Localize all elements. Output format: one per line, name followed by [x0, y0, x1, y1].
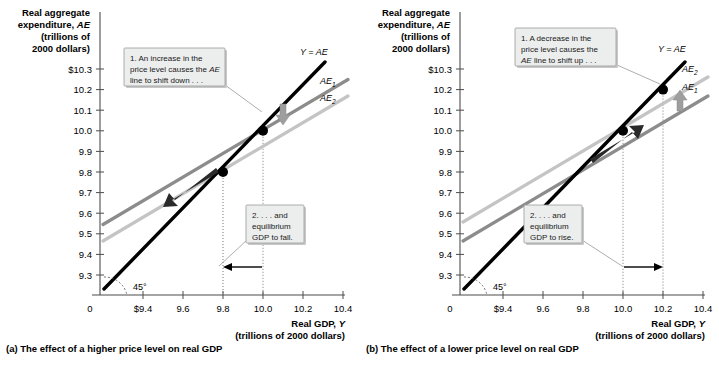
x-tick-label-4: 10.2 [294, 303, 313, 314]
identity-line [464, 62, 685, 289]
x-tick-label-1: 9.6 [536, 303, 549, 314]
x-tick-label-4: 10.2 [654, 303, 673, 314]
y-tick-label-8: 9.5 [79, 228, 92, 239]
y-tick-label-8: 9.5 [439, 228, 452, 239]
y-tick-label-5: 9.8 [439, 167, 452, 178]
y-axis-title-line3: (trillions of [401, 31, 451, 42]
gdp-change-arrow [223, 263, 262, 271]
y-tick-label-4: 9.9 [79, 146, 92, 157]
callout-1: 1. A decrease in the price level causes … [515, 28, 618, 68]
callout-1-leader [617, 65, 660, 84]
callout-2-line-1: equilibrium [530, 222, 569, 231]
callout-1: 1. An increase in the price level causes… [124, 48, 227, 88]
callout-2: 2. . . . and equilibrium GDP to fall. [246, 205, 306, 245]
y-tick-label-3: 10.0 [74, 125, 93, 136]
y-axis-title-line1: Real aggregate [22, 7, 90, 18]
x-tick-label-3: 10.0 [614, 303, 633, 314]
y-tick-label-6: 9.7 [439, 187, 452, 198]
callout-2-line-0: 2. . . . and [530, 211, 566, 220]
callout-2-line-1: equilibrium [252, 222, 291, 231]
figure-container: $10.3 10.2 10.1 10.0 9.9 9.8 9.7 9.6 9.5… [0, 0, 719, 368]
ae2-line-label: AE2 [681, 64, 698, 76]
x-tick-label-2: 9.8 [216, 303, 229, 314]
x-tick-label-0: $9.4 [494, 303, 513, 314]
y-tick-label-9: 9.4 [439, 249, 452, 260]
y-tick-label-2: 10.1 [434, 105, 453, 116]
panel-b-caption: (b) The effect of a lower price level on… [366, 343, 579, 354]
y-axis-title-line2: expenditure, AE [378, 19, 451, 30]
panel-b: $10.3 10.2 10.1 10.0 9.9 9.8 9.7 9.6 9.5… [360, 0, 719, 368]
callout-1-line-1: price level causes the [521, 45, 598, 54]
y-axis-title-line2: expenditure, AE [18, 19, 91, 30]
y-tick-label-2: 10.1 [74, 105, 93, 116]
ae1-line-label: AE1 [319, 76, 336, 88]
callout-2: 2. . . . and equilibrium GDP to rise. [524, 205, 584, 245]
y-tick-label-9: 9.4 [79, 249, 92, 260]
y-tick-label-5: 9.8 [79, 167, 92, 178]
ae2-line-label: AE2 [319, 93, 336, 105]
callout-1-line-0: 1. A decrease in the [521, 34, 592, 43]
callout-1-leader [225, 85, 262, 112]
y-tick-label-7: 9.6 [439, 208, 452, 219]
equilibrium-point-new [658, 85, 668, 95]
y-axis-title-line3: (trillions of [41, 31, 91, 42]
callout-2-line-2: GDP to rise. [530, 233, 573, 242]
y-tick-label-10: 9.3 [79, 270, 92, 281]
x-axis-subtitle: (trillions of 2000 dollars) [595, 330, 705, 341]
y-tick-label-1: 10.2 [434, 84, 453, 95]
angle-label: 45° [133, 282, 147, 292]
x-tick-label-0: $9.4 [134, 303, 153, 314]
panel-a-chart: $10.3 10.2 10.1 10.0 9.9 9.8 9.7 9.6 9.5… [0, 0, 359, 368]
equilibrium-point-initial [258, 126, 268, 136]
ae1-line [103, 80, 348, 225]
angle-label: 45° [493, 282, 507, 292]
ae1-line [463, 96, 708, 241]
callout-1-line-2: line to shift down . . . [130, 76, 203, 85]
y-tick-label-6: 9.7 [79, 187, 92, 198]
x-origin-label: 0 [447, 303, 452, 314]
gdp-change-arrow [624, 263, 663, 271]
y-tick-label-0: $10.3 [68, 64, 92, 75]
y-tick-label-4: 9.9 [439, 146, 452, 157]
y-tick-label-0: $10.3 [428, 64, 452, 75]
callout-1-line-2: AE line to shift up . . . [520, 56, 597, 65]
x-tick-label-2: 9.8 [576, 303, 589, 314]
x-tick-label-5: 10.4 [334, 303, 353, 314]
y-tick-label-1: 10.2 [74, 84, 93, 95]
callout-1-line-1: price level causes the AE [130, 65, 220, 74]
x-axis-title: Real GDP, Y [291, 318, 346, 329]
x-tick-label-3: 10.0 [254, 303, 273, 314]
x-axis-title: Real GDP, Y [651, 318, 706, 329]
x-tick-label-5: 10.4 [694, 303, 713, 314]
identity-line-label: Y = AE [300, 47, 329, 57]
callout-2-line-2: GDP to fall. [252, 233, 293, 242]
panel-b-chart: $10.3 10.2 10.1 10.0 9.9 9.8 9.7 9.6 9.5… [360, 0, 719, 368]
callout-2-line-0: 2. . . . and [252, 211, 288, 220]
y-axis-title-line1: Real aggregate [382, 7, 450, 18]
ae2-line [463, 77, 708, 222]
equilibrium-point-initial [618, 126, 628, 136]
y-axis-title-line4: 2000 dollars) [32, 43, 90, 54]
y-tick-label-10: 9.3 [439, 270, 452, 281]
y-axis-title-line4: 2000 dollars) [392, 43, 450, 54]
x-tick-label-1: 9.6 [176, 303, 189, 314]
x-origin-label: 0 [87, 303, 92, 314]
y-tick-label-7: 9.6 [79, 208, 92, 219]
y-tick-label-3: 10.0 [434, 125, 453, 136]
callout-1-line-0: 1. An increase in the [130, 54, 203, 63]
panel-a: $10.3 10.2 10.1 10.0 9.9 9.8 9.7 9.6 9.5… [0, 0, 359, 368]
identity-line [104, 62, 325, 289]
callout-2-leader [582, 240, 622, 266]
x-axis-subtitle: (trillions of 2000 dollars) [235, 330, 345, 341]
identity-line-label: Y = AE [658, 44, 687, 54]
panel-a-caption: (a) The effect of a higher price level o… [6, 343, 223, 354]
equilibrium-point-new [218, 167, 228, 177]
